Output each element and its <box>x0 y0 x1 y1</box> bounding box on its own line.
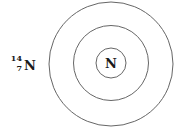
bohr-diagram: 14 7 N N <box>0 0 178 134</box>
isotope-notation: 14 7 N <box>11 53 36 73</box>
nucleus-label: N <box>105 56 117 71</box>
mass-number: 14 <box>11 53 23 63</box>
atomic-number: 7 <box>16 63 22 73</box>
element-symbol: N <box>24 58 36 73</box>
